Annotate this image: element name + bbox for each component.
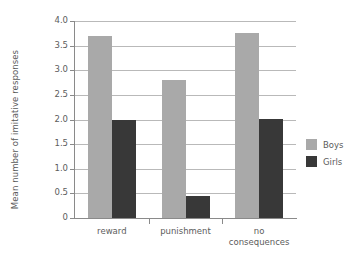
gridline	[75, 21, 296, 22]
category-separator	[149, 219, 150, 224]
y-tick-label: 4.0	[40, 15, 68, 25]
legend-item-boys[interactable]: Boys	[306, 136, 363, 153]
y-axis-tick-labels: 00.51.01.52.02.53.03.54.0	[0, 0, 68, 259]
bar-boys-2	[235, 33, 259, 218]
bar-girls-2	[259, 119, 283, 218]
bar-boys-0	[88, 36, 112, 218]
y-tick-label: 2.0	[40, 114, 68, 124]
plot-area	[75, 21, 296, 218]
y-tick-label: 0	[40, 212, 68, 222]
category-label: no consequences	[222, 226, 296, 248]
legend-swatch-girls-icon	[306, 156, 317, 167]
legend-swatch-boys-icon	[306, 139, 317, 150]
y-tick-label: 3.0	[40, 64, 68, 74]
category-label: punishment	[149, 226, 223, 237]
y-tick-label: 2.5	[40, 89, 68, 99]
y-tick-label: 3.5	[40, 40, 68, 50]
legend-label-boys: Boys	[323, 140, 344, 150]
y-tick-label: 1.5	[40, 138, 68, 148]
y-tick-label: 0.5	[40, 187, 68, 197]
category-separator	[222, 219, 223, 224]
gridline	[75, 218, 296, 219]
chart-legend: Boys Girls	[306, 136, 363, 170]
category-label: reward	[75, 226, 149, 237]
legend-item-girls[interactable]: Girls	[306, 153, 363, 170]
bar-girls-0	[112, 120, 136, 219]
bar-girls-1	[186, 196, 210, 218]
bar-chart-figure: Mean number of imitative responses 00.51…	[0, 0, 363, 259]
y-tick-label: 1.0	[40, 163, 68, 173]
bar-boys-1	[162, 80, 186, 218]
legend-label-girls: Girls	[323, 157, 342, 167]
